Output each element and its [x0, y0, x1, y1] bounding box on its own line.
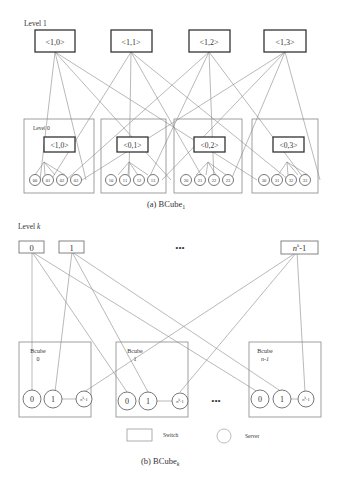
server-g1-last[interactable]: nk-1	[172, 393, 188, 409]
bcubek-diagram: Level k 0 1 •••	[18, 222, 321, 467]
svg-text:<1,3>: <1,3>	[275, 38, 295, 47]
bcube1-diagram: Level 1	[24, 19, 320, 210]
svg-text:02: 02	[60, 178, 65, 183]
svg-text:nk-1: nk-1	[80, 396, 88, 402]
svg-text:32: 32	[289, 178, 294, 183]
bcube1-links	[35, 52, 320, 180]
svg-text:23: 23	[226, 178, 231, 183]
svg-text:21: 21	[198, 178, 203, 183]
server-12[interactable]: 12	[134, 175, 145, 186]
server-01[interactable]: 01	[43, 175, 54, 186]
server-g1-0[interactable]: 0	[118, 392, 136, 410]
svg-text:<1,0>: <1,0>	[51, 141, 69, 150]
svg-text:0: 0	[30, 395, 34, 404]
svg-text:<0,2>: <0,2>	[201, 141, 219, 150]
svg-text:<0,1>: <0,1>	[124, 141, 142, 150]
legend-server-label: Server	[245, 433, 260, 439]
level0-switch-1[interactable]: <0,1>	[117, 137, 148, 152]
level1-label: Level 1	[24, 19, 47, 28]
svg-text:13: 13	[151, 178, 156, 183]
legend-switch-label: Switch	[163, 432, 179, 438]
svg-text:30: 30	[262, 178, 267, 183]
svg-text:1: 1	[146, 397, 150, 406]
level-k-label: Level k	[18, 222, 41, 231]
levelk-switch-1[interactable]: 1	[59, 241, 84, 253]
legend-switch-swatch	[127, 429, 152, 441]
svg-text:<0,3>: <0,3>	[280, 141, 298, 150]
level1-switch-0[interactable]: <1,0>	[35, 30, 75, 52]
svg-text:Bcube: Bcube	[257, 348, 273, 354]
bcube-figure: Level 1	[0, 0, 339, 478]
svg-text:01: 01	[46, 178, 51, 183]
levelk-switch-last[interactable]: nk-1	[281, 241, 318, 254]
bcube1-servers: 00 01 02 03 10 11 12 13 20 21 22 23 30 3…	[30, 175, 311, 186]
server-03[interactable]: 03	[71, 175, 82, 186]
bcubek-servers: 0 1 nk-1 0 1 nk-1 ••• 0 1 nk-1	[23, 390, 314, 410]
level1-switch-2[interactable]: <1,2>	[189, 30, 230, 52]
svg-text:10: 10	[109, 178, 114, 183]
svg-text:Bcube: Bcube	[127, 348, 143, 354]
svg-text:22: 22	[212, 178, 217, 183]
svg-text:nk-1: nk-1	[293, 243, 307, 253]
svg-text:n-1: n-1	[261, 356, 269, 362]
bcubek-links	[32, 252, 305, 392]
svg-text:1: 1	[134, 356, 137, 362]
svg-text:03: 03	[74, 178, 79, 183]
svg-text:12: 12	[137, 178, 142, 183]
svg-text:1: 1	[51, 395, 55, 404]
server-20[interactable]: 20	[181, 175, 192, 186]
level0-switch-0[interactable]: <1,0>	[44, 137, 75, 152]
server-11[interactable]: 11	[120, 175, 131, 186]
svg-text:31: 31	[275, 178, 280, 183]
svg-text:0: 0	[37, 356, 40, 362]
svg-text:00: 00	[33, 178, 38, 183]
server-32[interactable]: 32	[286, 175, 297, 186]
caption-b: (b) BCubek	[141, 456, 180, 467]
server-glast-last[interactable]: nk-1	[298, 391, 314, 407]
svg-text:0: 0	[125, 397, 129, 406]
svg-text:nk-1: nk-1	[176, 398, 184, 404]
ellipsis-groups: •••	[211, 396, 220, 406]
server-10[interactable]: 10	[106, 175, 117, 186]
svg-text:nk-1: nk-1	[302, 396, 310, 402]
level0-label: Level 0	[33, 125, 50, 131]
server-21[interactable]: 21	[195, 175, 206, 186]
levelk-switch-0[interactable]: 0	[19, 241, 44, 253]
level1-switch-1[interactable]: <1,1>	[111, 30, 152, 52]
caption-a: (a) BCube1	[147, 199, 185, 210]
server-g1-1[interactable]: 1	[139, 392, 157, 410]
server-g0-1[interactable]: 1	[44, 390, 62, 408]
server-22[interactable]: 22	[209, 175, 220, 186]
server-00[interactable]: 00	[30, 175, 41, 186]
ellipsis-switches: •••	[175, 243, 184, 253]
server-g0-last[interactable]: nk-1	[76, 391, 92, 407]
legend-server-swatch	[217, 429, 231, 443]
svg-text:20: 20	[184, 178, 189, 183]
svg-text:11: 11	[123, 178, 127, 183]
server-glast-1[interactable]: 1	[273, 390, 291, 408]
server-31[interactable]: 31	[272, 175, 283, 186]
server-33[interactable]: 33	[300, 175, 311, 186]
level0-switch-3[interactable]: <0,3>	[273, 137, 304, 152]
svg-text:1: 1	[280, 395, 284, 404]
svg-text:33: 33	[303, 178, 308, 183]
server-30[interactable]: 30	[259, 175, 270, 186]
svg-text:<1,1>: <1,1>	[121, 38, 141, 47]
server-13[interactable]: 13	[148, 175, 159, 186]
level1-switch-3[interactable]: <1,3>	[264, 30, 306, 52]
server-02[interactable]: 02	[57, 175, 68, 186]
svg-text:0: 0	[258, 395, 262, 404]
svg-text:1: 1	[69, 243, 73, 253]
server-g0-0[interactable]: 0	[23, 390, 41, 408]
server-glast-0[interactable]: 0	[251, 390, 269, 408]
svg-text:<1,2>: <1,2>	[199, 38, 219, 47]
level0-switch-2[interactable]: <0,2>	[194, 137, 225, 152]
svg-text:<1,0>: <1,0>	[45, 38, 65, 47]
server-23[interactable]: 23	[223, 175, 234, 186]
svg-text:0: 0	[29, 243, 33, 253]
svg-text:Bcube: Bcube	[30, 348, 46, 354]
legend: Switch Server	[127, 429, 260, 443]
